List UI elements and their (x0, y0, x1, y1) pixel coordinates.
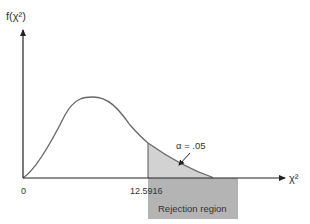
chi-square-chart: f(χ²) χ² 0 12.5916 α = .05 Rejection reg… (0, 0, 310, 224)
density-curve (23, 97, 213, 178)
alpha-arrow (179, 153, 190, 165)
x-axis-label: χ² (289, 172, 299, 184)
alpha-label: α = .05 (176, 140, 206, 151)
y-axis-label: f(χ²) (6, 10, 26, 22)
rejection-region-label: Rejection region (158, 203, 227, 214)
origin-tick-label: 0 (21, 186, 26, 196)
critical-value-label: 12.5916 (130, 186, 163, 196)
